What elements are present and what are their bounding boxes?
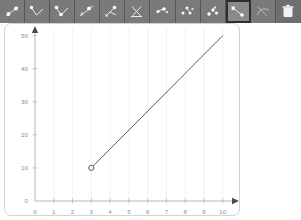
tool-delete[interactable] xyxy=(276,0,301,23)
tool-ray-open-point[interactable] xyxy=(226,0,251,23)
segment-ray-icon xyxy=(78,4,96,19)
v-shape-points-icon xyxy=(53,4,71,19)
tool-two-segment[interactable] xyxy=(25,0,50,23)
svg-text:9: 9 xyxy=(202,208,206,215)
svg-text:7: 7 xyxy=(165,208,169,215)
svg-text:10: 10 xyxy=(21,164,28,171)
ray-open-point-icon xyxy=(230,5,246,18)
svg-text:2: 2 xyxy=(71,208,75,215)
tool-scatter-small[interactable] xyxy=(150,0,175,23)
trash-icon xyxy=(281,4,295,19)
tool-scatter-cluster[interactable] xyxy=(201,0,226,23)
data-point-open-circle[interactable] xyxy=(89,165,94,170)
svg-text:8: 8 xyxy=(183,208,187,215)
tool-curve[interactable] xyxy=(251,0,276,23)
graph-editor-app: 01234567891001020304050 xyxy=(0,0,301,220)
x-cross-icon xyxy=(128,4,146,19)
tool-two-segment-points[interactable] xyxy=(50,0,75,23)
data-series-line[interactable] xyxy=(91,36,222,168)
svg-text:0: 0 xyxy=(25,197,29,204)
svg-text:10: 10 xyxy=(219,208,226,215)
tool-scatter-spread[interactable] xyxy=(176,0,201,23)
svg-text:6: 6 xyxy=(146,208,150,215)
scatter-small-icon xyxy=(154,4,172,19)
line-with-point-icon xyxy=(3,4,21,19)
svg-text:1: 1 xyxy=(52,208,56,215)
curve-icon xyxy=(254,4,272,19)
svg-text:0: 0 xyxy=(33,208,37,215)
svg-text:50: 50 xyxy=(21,32,28,39)
branch-icon xyxy=(103,4,121,19)
graph-canvas[interactable]: 01234567891001020304050 xyxy=(4,23,240,216)
svg-text:30: 30 xyxy=(21,98,28,105)
svg-text:40: 40 xyxy=(21,65,28,72)
graph-tools-toolbar xyxy=(0,0,301,23)
svg-text:20: 20 xyxy=(21,131,28,138)
scatter-cluster-icon xyxy=(204,4,222,19)
tool-branching[interactable] xyxy=(100,0,125,23)
scatter-spread-icon xyxy=(179,4,197,19)
tool-segment-ray[interactable] xyxy=(75,0,100,23)
svg-text:4: 4 xyxy=(108,208,112,215)
svg-text:3: 3 xyxy=(90,208,94,215)
svg-text:5: 5 xyxy=(127,208,131,215)
coordinate-plot[interactable]: 01234567891001020304050 xyxy=(5,24,239,215)
tool-crossing-lines[interactable] xyxy=(125,0,150,23)
v-shape-icon xyxy=(28,4,46,19)
tool-point-on-line[interactable] xyxy=(0,0,25,23)
